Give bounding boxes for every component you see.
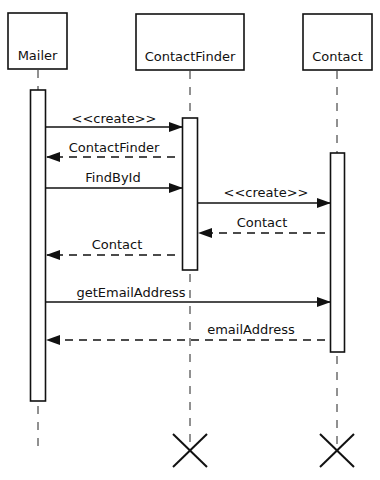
participant-contact: Contact xyxy=(303,14,372,70)
message-label: <<create>> xyxy=(224,185,309,200)
message-create-finder: <<create>> xyxy=(46,111,182,127)
message-return-contactfinder: ContactFinder xyxy=(47,140,175,157)
participant-label: Mailer xyxy=(18,48,58,63)
message-findbyid: FindById xyxy=(46,170,182,188)
participant-mailer: Mailer xyxy=(8,13,67,69)
sequence-diagram: Mailer ContactFinder Contact <<create>> … xyxy=(0,0,380,480)
message-label: <<create>> xyxy=(72,111,157,126)
message-create-contact: <<create>> xyxy=(198,185,330,203)
message-label: Contact xyxy=(237,215,288,230)
message-label: FindById xyxy=(85,170,140,185)
participant-contactfinder: ContactFinder xyxy=(136,14,244,70)
message-label: Contact xyxy=(92,237,143,252)
activation-contact xyxy=(331,153,345,352)
message-return-contact-to-mailer: Contact xyxy=(47,237,175,255)
message-label: ContactFinder xyxy=(69,140,160,155)
participant-label: Contact xyxy=(312,49,363,64)
message-return-emailaddress: emailAddress xyxy=(47,322,325,340)
message-return-contact-to-finder: Contact xyxy=(199,215,325,233)
message-label: getEmailAddress xyxy=(76,285,185,300)
activation-mailer xyxy=(31,90,46,401)
message-getemailaddress: getEmailAddress xyxy=(46,285,330,302)
message-label: emailAddress xyxy=(207,322,295,337)
activation-contactfinder xyxy=(183,118,198,270)
participant-label: ContactFinder xyxy=(145,49,236,64)
